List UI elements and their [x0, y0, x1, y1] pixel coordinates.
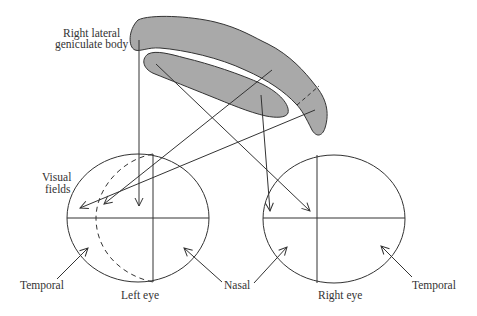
visual-pathway-diagram: Right lateral geniculate body Visual fie…: [0, 0, 477, 316]
visual-fields-label-line2: fields: [45, 183, 71, 195]
visual-fields-label-line1: Visual: [42, 171, 71, 183]
right-eye-label: Right eye: [318, 289, 362, 302]
lgn-label-line2: geniculate body: [55, 38, 128, 51]
nasal-right-pointer: [254, 247, 287, 283]
nasal-label: Nasal: [224, 279, 250, 291]
left-eye-label: Left eye: [121, 289, 159, 302]
projection-line: [104, 70, 272, 204]
temporal-right-label: Temporal: [412, 279, 456, 292]
right-eye-visual-field: [263, 155, 405, 283]
temporal-left-pointer: [57, 248, 88, 279]
nasal-left-pointer: [184, 248, 222, 282]
projection-line: [80, 110, 315, 208]
temporal-left-label: Temporal: [20, 279, 64, 292]
